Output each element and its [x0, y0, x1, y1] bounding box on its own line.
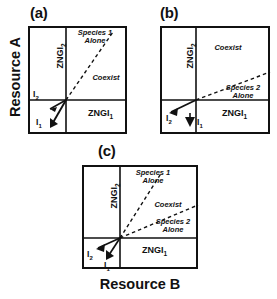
panel-c-zngi1-label: ZNGI1 [142, 245, 167, 257]
panel-c-vector-i2-label: I2 [87, 249, 93, 261]
panel-c-region-species-2-alone: Species 2 Alone [148, 218, 198, 235]
panel-c-region-coexist: Coexist [148, 201, 188, 209]
panel-c-vector-i1-label: I1 [104, 260, 110, 272]
x-axis-title: Resource B [82, 276, 198, 292]
panel-c-region-species-1-alone: Species 1 Alone [128, 169, 178, 186]
znGI-figure: Resource A (a) ZNGI2 ZNGI1 Species 1 [0, 0, 277, 299]
panel-c-zngi2-label: ZNGI2 [109, 175, 121, 217]
panel-c-graphics [0, 0, 277, 299]
panel-c-vector-i1-head [106, 250, 114, 260]
panel-c-vector-i2-head [96, 244, 105, 252]
